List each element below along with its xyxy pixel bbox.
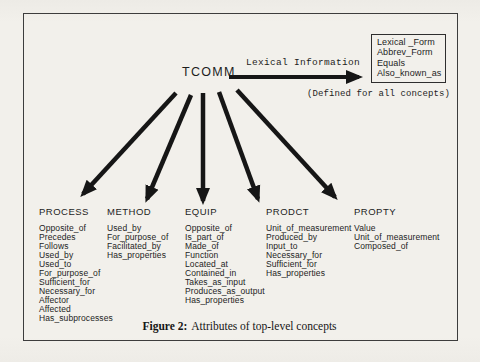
list-item: Also_known_as (377, 68, 443, 78)
attribute-list: ValueUnit_of_measurementComposed_of (354, 224, 440, 251)
figure-caption-text: Attributes of top-level concepts (191, 320, 336, 332)
concept-name: EQUIP (185, 206, 265, 217)
attribute-list: Used_byFor_purpose_ofFacilitated_byHas_p… (107, 224, 168, 260)
concept-name: PROPTY (354, 206, 440, 217)
scanned-figure-page: TCOMM Lexical Information Lexical _FormA… (0, 0, 480, 362)
list-item: Composed_of (354, 242, 440, 251)
concept-column-equip: EQUIP Opposite_ofIs_part_ofMade_ofFuncti… (185, 206, 265, 305)
root-concept-label: TCOMM (182, 65, 236, 79)
figure-caption-number: Figure 2: (142, 320, 187, 332)
concept-name: PRODCT (266, 206, 352, 217)
concept-name: METHOD (107, 206, 168, 217)
figure-caption: Figure 2:Attributes of top-level concept… (23, 320, 456, 332)
attribute-list: Opposite_ofIs_part_ofMade_ofFunctionLoca… (185, 224, 265, 305)
list-item: Has_properties (266, 269, 352, 278)
defined-for-all-concepts-note: (Defined for all concepts) (307, 89, 450, 99)
concept-name: PROCESS (39, 206, 113, 217)
concept-column-process: PROCESS Opposite_ofPrecedesFollowsUsed_b… (39, 206, 113, 323)
attribute-list: Unit_of_measurementProduced_byInput_toNe… (266, 224, 352, 278)
concept-column-propty: PROPTY ValueUnit_of_measurementComposed_… (354, 206, 440, 251)
list-item: Has_properties (107, 251, 168, 260)
list-item: Abbrev_Form (377, 47, 443, 57)
lexical-forms-box: Lexical _FormAbbrev_FormEqualsAlso_known… (371, 34, 446, 83)
concept-column-prodct: PRODCT Unit_of_measurementProduced_byInp… (266, 206, 352, 278)
lexical-information-label: Lexical Information (246, 57, 360, 68)
list-item: Lexical _Form (377, 37, 443, 47)
attribute-list: Opposite_ofPrecedesFollowsUsed_byUsed_to… (39, 224, 113, 323)
list-item: Has_properties (185, 296, 265, 305)
concept-column-method: METHOD Used_byFor_purpose_ofFacilitated_… (107, 206, 168, 260)
list-item: Equals (377, 58, 443, 68)
